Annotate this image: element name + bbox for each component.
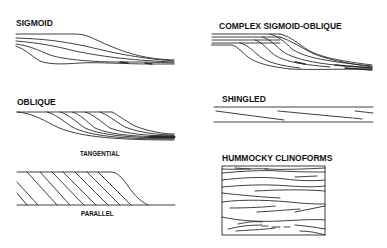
seismic-reflection-configurations-diagram — [0, 0, 387, 248]
shingled-drawing — [214, 107, 373, 122]
hummocky-clinoforms-drawing — [222, 166, 325, 235]
complex-sigmoid-oblique-drawing — [212, 34, 372, 70]
oblique-tangential-drawing — [17, 112, 174, 140]
oblique-parallel-drawing — [17, 172, 175, 205]
sigmoid-drawing — [16, 34, 174, 64]
